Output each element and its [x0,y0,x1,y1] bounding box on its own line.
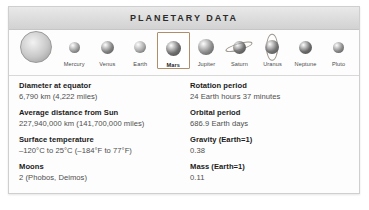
selector-item-pluto[interactable]: Pluto [322,32,355,67]
earth-orb-wrap [125,33,156,61]
fact-value: 0.11 [190,172,351,183]
selector-item-uranus[interactable]: Uranus [256,32,289,67]
fact-field: Gravity (Earth=1)0.38 [190,135,351,156]
planet-selector-row[interactable]: MercuryVenusEarthMarsJupiterSaturnUranus… [9,30,359,76]
fact-label: Surface temperature [19,135,176,145]
selector-item-label: Venus [99,61,115,67]
fact-field: Moons2 (Phobos, Deimos) [19,162,176,183]
fact-value: 0.38 [190,145,351,156]
venus-orb-wrap [92,33,123,61]
planetary-data-page: PLANETARY DATA MercuryVenusEarthMarsJupi… [0,0,369,210]
selector-item-label: Neptune [295,61,317,67]
selector-item-label: Mercury [64,61,85,67]
saturn-orb-wrap [224,33,255,61]
selector-item-label: Saturn [231,61,248,67]
mars-orb-wrap [159,34,188,62]
fact-field: Orbital period686.9 Earth days [190,108,351,129]
mercury-orb-wrap [59,33,90,61]
selector-item-label: Pluto [332,61,345,67]
pluto-orb-wrap [323,33,354,61]
planetary-data-panel: PLANETARY DATA MercuryVenusEarthMarsJupi… [8,6,360,194]
uranus-orb-wrap [257,33,288,61]
fact-field: Surface temperature–120°C to 25°C (–184°… [19,135,176,156]
fact-field: Rotation period24 Earth hours 37 minutes [190,81,351,102]
fact-label: Diameter at equator [19,81,176,91]
selector-item-mercury[interactable]: Mercury [58,32,91,67]
pluto-orb [333,42,344,53]
selector-item-neptune[interactable]: Neptune [289,32,322,67]
fact-value: 686.9 Earth days [190,118,351,129]
fact-value: 227,940,000 km (141,700,000 miles) [19,118,176,129]
fact-value: –120°C to 25°C (–184°F to 77°F) [19,145,176,156]
selector-item-earth[interactable]: Earth [124,32,157,67]
fact-label: Moons [19,162,176,172]
selector-item-saturn[interactable]: Saturn [223,32,256,67]
fact-label: Mass (Earth=1) [190,162,351,172]
column-divider [184,78,185,192]
fact-field: Diameter at equator6,790 km (4,222 miles… [19,81,176,102]
selector-item-sun[interactable] [15,32,58,61]
fact-value: 6,790 km (4,222 miles) [19,91,176,102]
selector-item-label: Jupiter [198,61,216,67]
earth-orb [134,41,146,53]
facts-column-left: Diameter at equator6,790 km (4,222 miles… [9,81,184,194]
sun-orb-wrap [16,33,57,61]
saturn-orb [233,41,246,54]
mars-orb [166,41,181,56]
fact-label: Rotation period [190,81,351,91]
fact-value: 2 (Phobos, Deimos) [19,172,176,183]
page-title: PLANETARY DATA [130,13,238,23]
venus-orb [101,41,114,54]
neptune-orb-wrap [290,33,321,61]
mercury-orb [69,42,80,53]
sun-orb [20,31,52,63]
jupiter-orb-wrap [191,33,222,61]
selector-item-label: Uranus [263,61,282,67]
selector-item-jupiter[interactable]: Jupiter [190,32,223,67]
selector-item-venus[interactable]: Venus [91,32,124,67]
neptune-orb [299,41,312,54]
fact-field: Mass (Earth=1)0.11 [190,162,351,183]
selector-item-mars[interactable]: Mars [157,32,190,69]
facts-column-right: Rotation period24 Earth hours 37 minutes… [184,81,359,194]
fact-value: 24 Earth hours 37 minutes [190,91,351,102]
fact-field: Average distance from Sun227,940,000 km … [19,108,176,129]
panel-header: PLANETARY DATA [9,7,359,30]
planet-facts-grid: Diameter at equator6,790 km (4,222 miles… [9,76,359,194]
fact-label: Orbital period [190,108,351,118]
fact-label: Gravity (Earth=1) [190,135,351,145]
fact-label: Average distance from Sun [19,108,176,118]
selector-item-label: Earth [133,61,147,67]
selector-item-label: Mars [167,62,180,68]
jupiter-orb [198,39,214,55]
